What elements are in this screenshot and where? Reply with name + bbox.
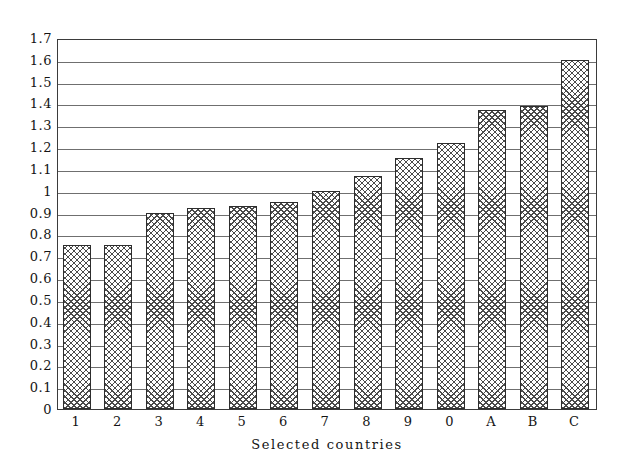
y-tick-label: 1.7: [4, 32, 52, 45]
bar-series: [58, 40, 596, 409]
y-tick-label: 1.5: [4, 76, 52, 89]
y-tick-label: 0.4: [4, 316, 52, 329]
x-tick-label: 0: [430, 412, 470, 432]
y-tick-label: 0.3: [4, 338, 52, 351]
x-tick-label: 5: [222, 412, 262, 432]
y-tick-label: 1: [4, 185, 52, 198]
bar: [63, 245, 91, 409]
x-tick-label: 3: [139, 412, 179, 432]
y-tick-label: 0.5: [4, 294, 52, 307]
y-tick-label: 0.6: [4, 272, 52, 285]
bar: [520, 106, 548, 409]
bar: [395, 158, 423, 409]
y-tick-label: 0.2: [4, 359, 52, 372]
bar: [187, 208, 215, 409]
x-tick-label: B: [513, 412, 553, 432]
plot-area: [57, 39, 597, 410]
x-tick-label: 8: [347, 412, 387, 432]
x-tick-label: C: [554, 412, 594, 432]
x-tick-label: A: [471, 412, 511, 432]
y-tick-label: 1.3: [4, 119, 52, 132]
x-tick-label: 9: [388, 412, 428, 432]
bar: [146, 213, 174, 409]
bar: [437, 143, 465, 409]
x-tick-label: 2: [97, 412, 137, 432]
bar: [312, 191, 340, 409]
bar: [229, 206, 257, 409]
y-tick-label: 1.6: [4, 54, 52, 67]
x-tick-label: 6: [263, 412, 303, 432]
bar: [104, 245, 132, 409]
x-axis-title: Selected countries: [57, 437, 597, 452]
x-axis: 1234567890ABC: [57, 412, 597, 436]
y-tick-label: 0.8: [4, 228, 52, 241]
y-tick-label: 0: [4, 403, 52, 416]
y-tick-label: 1.4: [4, 97, 52, 110]
y-tick-label: 1.1: [4, 163, 52, 176]
bar: [354, 176, 382, 410]
bar: [478, 110, 506, 409]
bar: [561, 60, 589, 409]
y-tick-label: 0.1: [4, 381, 52, 394]
y-tick-label: 0.7: [4, 250, 52, 263]
x-tick-label: 1: [56, 412, 96, 432]
x-tick-label: 7: [305, 412, 345, 432]
x-tick-label: 4: [180, 412, 220, 432]
y-tick-label: 0.9: [4, 207, 52, 220]
bar-chart: 00.10.20.30.40.50.60.70.80.911.11.21.31.…: [0, 0, 621, 472]
y-tick-label: 1.2: [4, 141, 52, 154]
y-axis: 00.10.20.30.40.50.60.70.80.911.11.21.31.…: [0, 39, 52, 410]
bar: [270, 202, 298, 409]
